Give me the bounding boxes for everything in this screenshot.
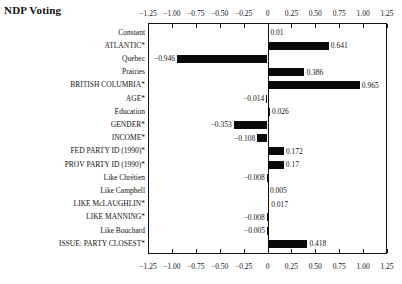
tick-mark-bottom <box>172 249 173 253</box>
bar <box>268 68 305 76</box>
bar <box>268 147 284 155</box>
tick-mark-top <box>268 24 269 28</box>
tick-mark-top <box>220 24 221 28</box>
bar <box>268 200 270 208</box>
tick-label-top: 0.50 <box>309 9 322 18</box>
category-label: PROV PARTY ID (1990)* <box>65 160 145 169</box>
bar <box>268 81 360 89</box>
category-label: Constant <box>118 28 145 37</box>
tick-mark-bottom <box>339 249 340 253</box>
tick-label-top: −0.25 <box>235 9 252 18</box>
tick-label-bottom: 1.00 <box>357 262 370 271</box>
bar <box>268 187 269 195</box>
tick-mark-bottom <box>315 249 316 253</box>
bottom-axis-line <box>148 253 387 254</box>
category-label: FED PARTY ID (1990)* <box>70 146 145 155</box>
tick-mark-bottom <box>220 249 221 253</box>
tick-label-top: 0.25 <box>285 9 298 18</box>
tick-mark-top <box>291 24 292 28</box>
category-label: Prairies <box>122 67 145 76</box>
category-label: Education <box>115 107 145 116</box>
bar-value-label: 0.01 <box>270 29 283 37</box>
bar <box>268 240 308 248</box>
tick-mark-bottom <box>291 249 292 253</box>
tick-label-top: 0 <box>266 9 270 18</box>
bar-value-label: 0.026 <box>272 108 289 116</box>
tick-label-bottom: −1.00 <box>163 262 180 271</box>
tick-mark-bottom <box>196 249 197 253</box>
tick-mark-bottom <box>268 249 269 253</box>
tick-label-bottom: −0.50 <box>211 262 228 271</box>
ndp-voting-chart: NDP Voting −1.25−1.25−1.00−1.00−0.75−0.7… <box>0 0 402 284</box>
tick-label-bottom: 0.25 <box>285 262 298 271</box>
chart-title: NDP Voting <box>4 4 61 16</box>
tick-mark-top <box>196 24 197 28</box>
bar <box>267 213 268 221</box>
category-label: ATLANTIC* <box>105 41 145 50</box>
tick-mark-top <box>387 24 388 28</box>
tick-mark-top <box>148 24 149 28</box>
tick-label-top: −0.75 <box>187 9 204 18</box>
bar <box>268 108 270 116</box>
tick-label-bottom: −0.75 <box>187 262 204 271</box>
category-label: LIKE McLAUGHLIN* <box>74 199 145 208</box>
bar-value-label: 0.017 <box>271 201 288 209</box>
tick-label-top: −0.50 <box>211 9 228 18</box>
tick-label-bottom: 0.75 <box>333 262 346 271</box>
bar-value-label: −0.108 <box>0 135 255 143</box>
bar <box>268 161 284 169</box>
tick-mark-top <box>363 24 364 28</box>
bar-value-label: 0.386 <box>306 69 323 77</box>
category-label: Like Campbell <box>100 186 145 195</box>
tick-label-bottom: 0.50 <box>309 262 322 271</box>
tick-label-top: 1.00 <box>357 9 370 18</box>
tick-label-top: 0.75 <box>333 9 346 18</box>
tick-label-bottom: 1.25 <box>380 262 393 271</box>
tick-label-top: 1.25 <box>380 9 393 18</box>
tick-mark-bottom <box>244 249 245 253</box>
bar-value-label: −0.353 <box>0 121 232 129</box>
bar-value-label: 0.17 <box>286 161 299 169</box>
tick-label-bottom: 0 <box>266 262 270 271</box>
tick-label-top: −1.00 <box>163 9 180 18</box>
bar-value-label: −0.008 <box>0 214 265 222</box>
bar <box>257 134 267 142</box>
tick-label-bottom: −0.25 <box>235 262 252 271</box>
bar-value-label: −0.008 <box>0 174 265 182</box>
bar <box>267 227 268 235</box>
bar-value-label: 0.641 <box>331 42 348 50</box>
tick-mark-bottom <box>387 249 388 253</box>
bar <box>234 121 268 129</box>
bar <box>267 174 268 182</box>
tick-mark-bottom <box>148 249 149 253</box>
bar-value-label: 0.005 <box>270 187 287 195</box>
tick-label-top: −1.25 <box>139 9 156 18</box>
tick-label-bottom: −1.25 <box>139 262 156 271</box>
bar-value-label: 0.172 <box>286 148 303 156</box>
category-label: ISSUE: PARTY CLOSEST* <box>59 239 145 248</box>
bar-value-label: 0.965 <box>362 82 379 90</box>
bar-value-label: −0.014 <box>0 95 264 103</box>
bar-value-label: −0.005 <box>0 227 265 235</box>
bar <box>177 55 267 63</box>
tick-mark-top <box>339 24 340 28</box>
tick-mark-top <box>244 24 245 28</box>
tick-mark-bottom <box>363 249 364 253</box>
category-label: BRITISH COLUMBIA* <box>70 80 145 89</box>
bar <box>268 42 329 50</box>
bar <box>268 29 269 37</box>
bar-value-label: 0.418 <box>309 240 326 248</box>
bar-value-label: −0.946 <box>0 55 175 63</box>
tick-mark-top <box>315 24 316 28</box>
tick-mark-top <box>172 24 173 28</box>
bar <box>266 95 267 103</box>
